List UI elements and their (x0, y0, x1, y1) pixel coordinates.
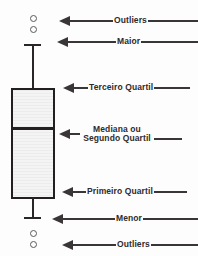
arrow-left-icon (59, 16, 70, 26)
arrow-left-icon (57, 37, 68, 47)
leader-line (148, 20, 198, 22)
arrow-left-icon (52, 214, 63, 224)
annotation-label: Maior (116, 37, 141, 46)
leader-line (73, 191, 86, 193)
annotation-label: Mediana ouSegundo Quartil (80, 125, 154, 143)
annotation-label: Terceiro Quartil (88, 83, 154, 92)
annotation-label: Outliers (113, 16, 148, 25)
outlier-point-top-2 (30, 26, 37, 33)
leader-line (143, 218, 198, 220)
annotation-maior: Maior (57, 35, 198, 48)
annotation-label: Primeiro Quartil (86, 187, 154, 196)
leader-line (151, 244, 198, 246)
leader-line (70, 20, 113, 22)
leader-line (70, 133, 80, 135)
leader-line (141, 41, 198, 43)
outlier-point-bottom-2 (30, 241, 37, 248)
annotation-outliers-bottom: Outliers (62, 238, 198, 251)
annotation-label: Menor (115, 214, 143, 223)
annotation-primeiro-quartil: Primeiro Quartil (62, 185, 187, 198)
lower-whisker-cap (24, 217, 41, 219)
leader-line (154, 138, 182, 140)
outlier-point-top-1 (30, 15, 37, 22)
leader-line (63, 218, 115, 220)
lower-whisker-line (32, 198, 34, 218)
boxplot-box (11, 88, 55, 199)
leader-line (73, 244, 116, 246)
leader-line (154, 87, 190, 89)
annotation-label-line2: Segundo Quartil (83, 133, 151, 143)
outlier-point-bottom-1 (30, 230, 37, 237)
annotation-outliers-top: Outliers (59, 14, 198, 27)
leader-line (154, 191, 187, 193)
arrow-left-icon (62, 187, 73, 197)
arrow-left-icon (59, 129, 70, 139)
leader-line (68, 41, 116, 43)
annotation-menor: Menor (52, 212, 198, 225)
annotation-terceiro-quartil: Terceiro Quartil (63, 81, 190, 94)
upper-whisker-line (32, 45, 34, 89)
boxplot-figure: Outliers Maior Terceiro Quartil Mediana … (0, 0, 198, 256)
arrow-left-icon (63, 83, 74, 93)
annotation-label: Outliers (116, 240, 151, 249)
median-line (11, 127, 55, 130)
arrow-left-icon (62, 240, 73, 250)
leader-line (74, 87, 88, 89)
annotation-mediana: Mediana ouSegundo Quartil (59, 123, 182, 145)
